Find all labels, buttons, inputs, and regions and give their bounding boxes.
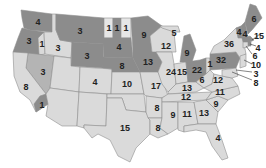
label-va: 12 bbox=[213, 75, 223, 85]
state-az bbox=[46, 88, 79, 126]
label-ar: 8 bbox=[154, 103, 159, 113]
label-nv: 3 bbox=[40, 67, 45, 77]
state-md bbox=[222, 68, 238, 78]
label-ca-south: 1 bbox=[39, 100, 44, 110]
state-fl bbox=[184, 124, 228, 160]
label-nh: 4 bbox=[242, 29, 247, 39]
state-nj bbox=[240, 54, 246, 68]
label-il: 24 bbox=[166, 67, 176, 77]
label-nd-1: 1 bbox=[106, 23, 111, 33]
label-wv: 6 bbox=[199, 75, 204, 85]
label-sd: 4 bbox=[116, 42, 121, 52]
label-ks: 10 bbox=[122, 79, 132, 89]
label-pa: 32 bbox=[216, 55, 226, 65]
label-me: 6 bbox=[251, 14, 256, 24]
label-al: 11 bbox=[182, 109, 192, 119]
label-sc: 9 bbox=[213, 99, 218, 109]
state-ct bbox=[243, 42, 248, 48]
label-wa: 4 bbox=[35, 17, 40, 27]
label-mo: 17 bbox=[151, 81, 161, 91]
label-ny: 36 bbox=[224, 39, 234, 49]
label-tn: 12 bbox=[181, 92, 191, 102]
label-ma: 15 bbox=[254, 31, 264, 41]
label-ms: 9 bbox=[170, 110, 175, 120]
label-vt: 4 bbox=[236, 27, 241, 37]
label-id: 3 bbox=[55, 43, 60, 53]
label-ne: 8 bbox=[119, 61, 124, 71]
label-wy: 3 bbox=[84, 51, 89, 61]
label-nc: 11 bbox=[215, 87, 225, 97]
label-co: 4 bbox=[92, 77, 97, 87]
label-mi: 9 bbox=[184, 48, 189, 58]
label-wi: 12 bbox=[161, 41, 171, 51]
label-nd-2: 1 bbox=[114, 23, 119, 33]
us-map: 4 3 1 3 3 3 3 8 1 4 1 1 1 4 8 10 15 9 13… bbox=[0, 0, 266, 168]
label-tx: 15 bbox=[120, 123, 130, 133]
label-la: 8 bbox=[155, 123, 160, 133]
label-mn: 9 bbox=[141, 30, 146, 40]
label-mi-up: 5 bbox=[171, 28, 176, 38]
label-in: 15 bbox=[177, 67, 187, 77]
label-ga: 13 bbox=[199, 108, 209, 118]
label-fl: 4 bbox=[215, 133, 220, 143]
label-nd-3: 1 bbox=[123, 23, 128, 33]
label-or: 3 bbox=[26, 36, 31, 46]
label-id-north: 1 bbox=[39, 39, 44, 49]
label-md: 8 bbox=[253, 78, 258, 88]
label-mt: 3 bbox=[77, 26, 82, 36]
label-ia: 13 bbox=[143, 57, 153, 67]
label-ca: 8 bbox=[23, 82, 28, 92]
label-oh: 22 bbox=[192, 65, 202, 75]
label-wv-north: 1 bbox=[207, 59, 212, 69]
state-nm bbox=[77, 92, 107, 128]
